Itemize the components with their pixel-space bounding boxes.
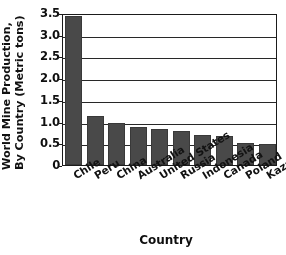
y-axis-tickmark: [58, 144, 62, 145]
x-axis-tick-labels: ChilePeruChinaAustraliaUnited StatesRuss…: [0, 166, 286, 228]
y-axis-tickmark: [58, 14, 62, 15]
y-axis-tickmark: [58, 101, 62, 102]
y-tick-label: 2.0: [40, 73, 60, 84]
y-tick-label: 1.5: [40, 95, 60, 106]
y-axis-tickmark: [58, 57, 62, 58]
y-axis-title-line-1: World Mine Production,: [0, 22, 13, 170]
y-axis-tickmark: [58, 123, 62, 124]
y-axis-tickmark: [58, 36, 62, 37]
y-tick-label: 0.5: [40, 138, 60, 149]
y-axis-tick-labels: 0 0.5 1.0 1.5 2.0 2.5 3.0 3.5: [30, 0, 60, 175]
y-tick-label: 3.5: [40, 8, 60, 19]
y-axis-tickmark: [58, 79, 62, 80]
y-axis-title-line-2: By Country (Metric tons): [13, 15, 26, 170]
y-tick-label: 3.0: [40, 30, 60, 41]
bar: [65, 16, 82, 165]
bar-chart-figure: World Mine Production, By Country (Metri…: [0, 0, 286, 255]
y-tick-label: 1.0: [40, 117, 60, 128]
x-axis-title: Country: [0, 233, 286, 247]
y-tick-label: 2.5: [40, 51, 60, 62]
